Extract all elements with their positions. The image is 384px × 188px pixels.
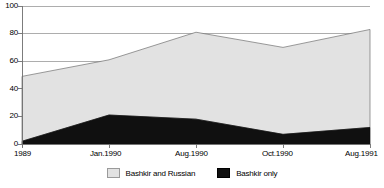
stacked-area-chart: 100 80 60 40 20 0 1989 Jan.1990 Aug.1990… bbox=[0, 0, 384, 188]
x-tick-label-aug-1991: Aug.1991 bbox=[345, 149, 378, 158]
legend-entry-bashkir-only: Bashkir only bbox=[217, 168, 277, 178]
y-tick-label-60: 60 bbox=[0, 57, 18, 65]
x-tick-label-oct-1990: Oct.1990 bbox=[262, 149, 293, 158]
y-tick-label-80: 80 bbox=[0, 29, 18, 37]
x-tick-label-jan-1990: Jan.1990 bbox=[90, 149, 121, 158]
x-tick-label-1989: 1989 bbox=[14, 149, 31, 158]
chart-legend: Bashkir and Russian Bashkir only bbox=[0, 168, 384, 178]
black-swatch-icon bbox=[217, 168, 230, 178]
legend-entry-bashkir-and-russian: Bashkir and Russian bbox=[107, 168, 196, 178]
legend-label-bashkir-and-russian: Bashkir and Russian bbox=[126, 169, 196, 178]
y-tick-marks bbox=[18, 6, 22, 144]
legend-label-bashkir-only: Bashkir only bbox=[236, 169, 277, 178]
y-tick-label-100: 100 bbox=[0, 2, 18, 10]
y-tick-label-20: 20 bbox=[0, 112, 18, 120]
plot-area bbox=[0, 0, 384, 188]
y-tick-label-0: 0 bbox=[0, 140, 18, 148]
x-tick-marks bbox=[22, 144, 370, 148]
x-tick-label-aug-1990: Aug.1990 bbox=[175, 149, 208, 158]
y-tick-label-40: 40 bbox=[0, 85, 18, 93]
light-gray-swatch-icon bbox=[107, 168, 120, 178]
